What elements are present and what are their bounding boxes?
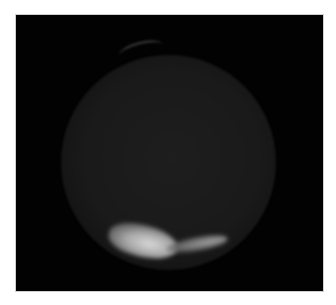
astronomical-image xyxy=(15,14,324,292)
